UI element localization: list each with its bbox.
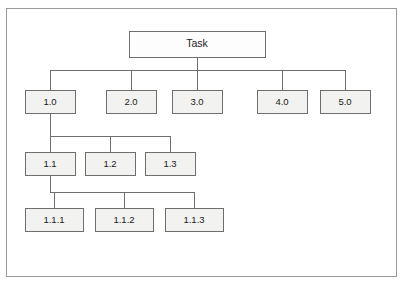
node-label: 1.1.1 — [43, 214, 64, 225]
node-label: 1.3 — [163, 158, 176, 169]
node-label: Task — [186, 37, 208, 49]
node-label: 1.1.3 — [183, 214, 204, 225]
node-layer: Task1.02.03.04.05.01.11.21.31.1.11.1.21.… — [26, 32, 371, 232]
node-label: 1.1.2 — [113, 214, 134, 225]
node-label: 1.0 — [43, 96, 56, 107]
wbs-node-5.0[interactable]: 5.0 — [321, 91, 371, 114]
wbs-tree-canvas: Task1.02.03.04.05.01.11.21.31.1.11.1.21.… — [0, 0, 403, 286]
wbs-node-4.0[interactable]: 4.0 — [258, 91, 308, 114]
wbs-node-task[interactable]: Task — [130, 32, 266, 58]
node-label: 5.0 — [338, 96, 351, 107]
wbs-node-1.2[interactable]: 1.2 — [86, 153, 136, 176]
wbs-node-1.3[interactable]: 1.3 — [146, 153, 196, 176]
wbs-node-2.0[interactable]: 2.0 — [107, 91, 157, 114]
node-label: 3.0 — [190, 96, 203, 107]
node-label: 4.0 — [275, 96, 288, 107]
node-label: 2.0 — [124, 96, 137, 107]
connector-layer — [50, 57, 345, 208]
wbs-node-1.1[interactable]: 1.1 — [26, 153, 76, 176]
wbs-node-1.0[interactable]: 1.0 — [26, 91, 76, 114]
wbs-node-1.1.2[interactable]: 1.1.2 — [96, 209, 154, 232]
node-label: 1.1 — [43, 158, 56, 169]
wbs-node-1.1.3[interactable]: 1.1.3 — [166, 209, 224, 232]
wbs-diagram-figure: Task1.02.03.04.05.01.11.21.31.1.11.1.21.… — [0, 0, 403, 286]
wbs-node-1.1.1[interactable]: 1.1.1 — [26, 209, 84, 232]
wbs-node-3.0[interactable]: 3.0 — [173, 91, 223, 114]
node-label: 1.2 — [103, 158, 116, 169]
